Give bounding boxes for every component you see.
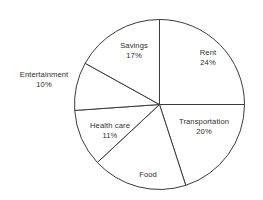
pie-label-savings: Savings17% <box>120 41 148 61</box>
pie-label-percent: 10% <box>20 80 69 90</box>
pie-label-percent: 20% <box>179 127 229 137</box>
pie-label-name: Rent <box>200 48 216 57</box>
pie-label-name: Entertainment <box>20 70 69 79</box>
pie-label-percent: 17% <box>120 51 148 61</box>
pie-label-name: Health care <box>90 121 130 130</box>
pie-chart-figure: Rent24%Transportation20%FoodHealth care1… <box>0 0 263 200</box>
pie-label-name: Transportation <box>179 117 229 126</box>
pie-label-food: Food <box>139 170 157 180</box>
pie-label-entertainment: Entertainment10% <box>20 70 69 90</box>
pie-label-rent: Rent24% <box>200 48 216 68</box>
pie-label-health-care: Health care11% <box>90 121 130 141</box>
pie-label-percent: 24% <box>200 58 216 68</box>
pie-slice-group <box>75 20 245 190</box>
pie-label-transportation: Transportation20% <box>179 117 229 137</box>
pie-label-percent: 11% <box>90 131 130 141</box>
pie-label-name: Food <box>139 170 157 179</box>
pie-chart-svg <box>0 0 263 200</box>
pie-label-name: Savings <box>120 41 148 50</box>
